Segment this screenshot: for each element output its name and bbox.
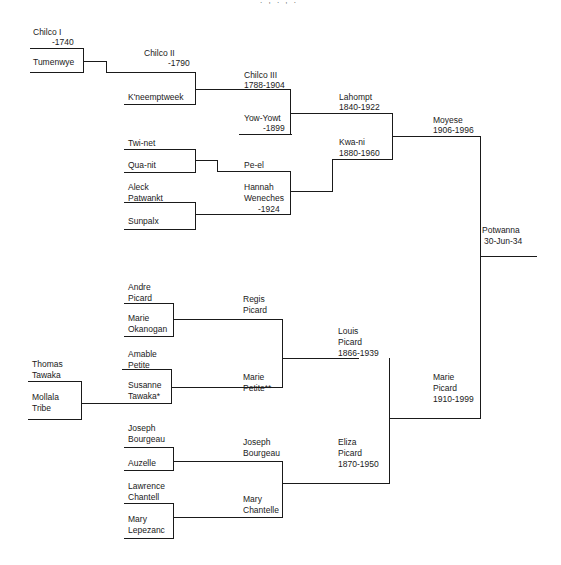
- person-mollala-last: Tribe: [32, 403, 51, 414]
- person-marie-okanogan-first: Marie: [128, 313, 149, 324]
- person-joseph-b2-last: Bourgeau: [243, 448, 280, 459]
- person-thomas-last: Tawaka: [32, 370, 61, 381]
- person-hannah-last: Weneches: [244, 193, 284, 204]
- line: [171, 387, 172, 404]
- person-sunpalx: Sunpalx: [128, 216, 159, 227]
- person-marie-picard-last: Picard: [433, 383, 457, 394]
- line: [124, 149, 196, 150]
- person-mary-chantelle-last: Chantelle: [243, 505, 279, 516]
- person-hannah-first: Hannah: [244, 182, 274, 193]
- person-mollala-first: Mollala: [32, 392, 59, 403]
- person-pe-el: Pe-el: [244, 160, 264, 171]
- line: [393, 136, 480, 137]
- person-regis-last: Picard: [243, 305, 267, 316]
- person-eliza-first: Eliza: [338, 437, 356, 448]
- header-fragment: . , . , .: [260, 0, 298, 5]
- line: [290, 89, 291, 135]
- line: [481, 256, 537, 257]
- line: [291, 113, 393, 114]
- person-louis-last: Picard: [338, 337, 362, 348]
- line: [124, 172, 196, 173]
- line: [239, 134, 292, 135]
- line: [28, 381, 82, 382]
- person-potwanna-name: Potwanna: [482, 225, 520, 236]
- person-marie-okanogan-last: Okanogan: [128, 324, 167, 335]
- line: [28, 419, 82, 420]
- line: [173, 447, 174, 471]
- person-joseph-b1-last: Bourgeau: [128, 434, 165, 445]
- line: [124, 503, 174, 504]
- person-yow-yowt-dates: -1899: [263, 123, 285, 134]
- line: [389, 418, 390, 484]
- person-thomas-first: Thomas: [32, 359, 63, 370]
- person-regis-first: Regis: [243, 294, 265, 305]
- person-andre-first: Andre: [128, 282, 151, 293]
- line: [30, 72, 84, 73]
- line: [30, 48, 84, 49]
- person-kneemptweek: K'neemptweek: [128, 92, 184, 103]
- line: [173, 503, 174, 539]
- line: [124, 202, 196, 203]
- person-mary-lepezanc-last: Lepezanc: [128, 525, 165, 536]
- person-louis-first: Louis: [338, 326, 358, 337]
- person-joseph-b1-first: Joseph: [128, 423, 155, 434]
- line: [332, 159, 333, 192]
- person-lawrence-last: Chantell: [128, 492, 159, 503]
- person-lawrence-first: Lawrence: [128, 481, 165, 492]
- line: [332, 159, 393, 160]
- line: [124, 104, 196, 105]
- person-amable-first: Amable: [128, 349, 157, 360]
- line: [480, 256, 481, 419]
- line: [122, 369, 172, 370]
- line: [196, 89, 291, 90]
- line: [290, 171, 291, 215]
- line: [282, 319, 283, 388]
- person-eliza-last: Picard: [338, 448, 362, 459]
- line: [282, 461, 283, 517]
- line: [174, 461, 283, 462]
- line: [217, 171, 291, 172]
- person-twi-net: Twi-net: [128, 138, 155, 149]
- person-susanne-last: Tawaka*: [128, 391, 160, 402]
- line: [390, 418, 481, 419]
- line: [124, 538, 174, 539]
- person-marie-picard-first: Marie: [433, 372, 454, 383]
- line: [106, 72, 196, 73]
- line: [124, 447, 174, 448]
- line: [124, 336, 174, 337]
- person-mary-chantelle-first: Mary: [243, 494, 262, 505]
- person-lahompt-dates: 1840-1922: [339, 102, 380, 113]
- person-kwa-ni-name: Kwa-ni: [339, 137, 365, 148]
- person-marie-petite-last: Petite**: [243, 383, 271, 394]
- person-joseph-b2-first: Joseph: [243, 437, 270, 448]
- line: [106, 61, 107, 72]
- person-auzelle: Auzelle: [128, 458, 156, 469]
- person-moyese-dates: 1906-1996: [433, 125, 474, 136]
- line: [196, 160, 218, 161]
- line: [81, 381, 82, 420]
- person-eliza-dates: 1870-1950: [338, 459, 379, 470]
- line: [283, 483, 390, 484]
- line: [124, 470, 174, 471]
- line: [291, 191, 333, 192]
- person-kwa-ni-dates: 1880-1960: [339, 148, 380, 159]
- person-hannah-dates: -1924: [258, 204, 280, 215]
- person-potwanna-dates: 30-Jun-34: [484, 236, 522, 247]
- person-chilco-i-dates: -1740: [52, 37, 74, 48]
- person-tumenwye: Tumenwye: [33, 57, 74, 68]
- person-marie-picard-dates: 1910-1999: [433, 394, 474, 405]
- line: [84, 61, 107, 62]
- line: [124, 303, 174, 304]
- person-aleck-first: Aleck: [128, 182, 149, 193]
- person-louis-dates: 1866-1939: [338, 348, 379, 359]
- line: [195, 202, 196, 230]
- line: [174, 319, 283, 320]
- line: [174, 517, 283, 518]
- line: [124, 229, 196, 230]
- person-susanne-first: Susanne: [128, 380, 162, 391]
- line: [82, 403, 172, 404]
- person-qua-nit: Qua-nit: [128, 160, 156, 171]
- person-chilco-ii-dates: -1790: [168, 58, 190, 69]
- person-mary-lepezanc-first: Mary: [128, 514, 147, 525]
- person-marie-petite-first: Marie: [243, 372, 264, 383]
